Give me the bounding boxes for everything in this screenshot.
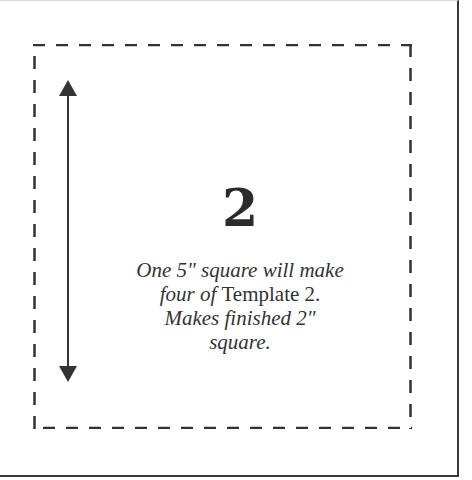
template-number: 2: [90, 182, 390, 234]
template-label: 2 One 5" square will make four of Templa…: [90, 170, 390, 354]
instruction-line-2-upright: Template 2.: [222, 282, 321, 306]
instruction-line-2: four of Template 2.: [90, 282, 390, 306]
instruction-line-1: One 5" square will make: [90, 258, 390, 282]
template-instructions: One 5" square will make four of Template…: [90, 258, 390, 354]
double-headed-arrow-icon: [58, 80, 78, 382]
instruction-line-4: square.: [90, 330, 390, 354]
instruction-line-2-italic: four of: [160, 282, 222, 306]
instruction-line-3: Makes finished 2": [90, 306, 390, 330]
